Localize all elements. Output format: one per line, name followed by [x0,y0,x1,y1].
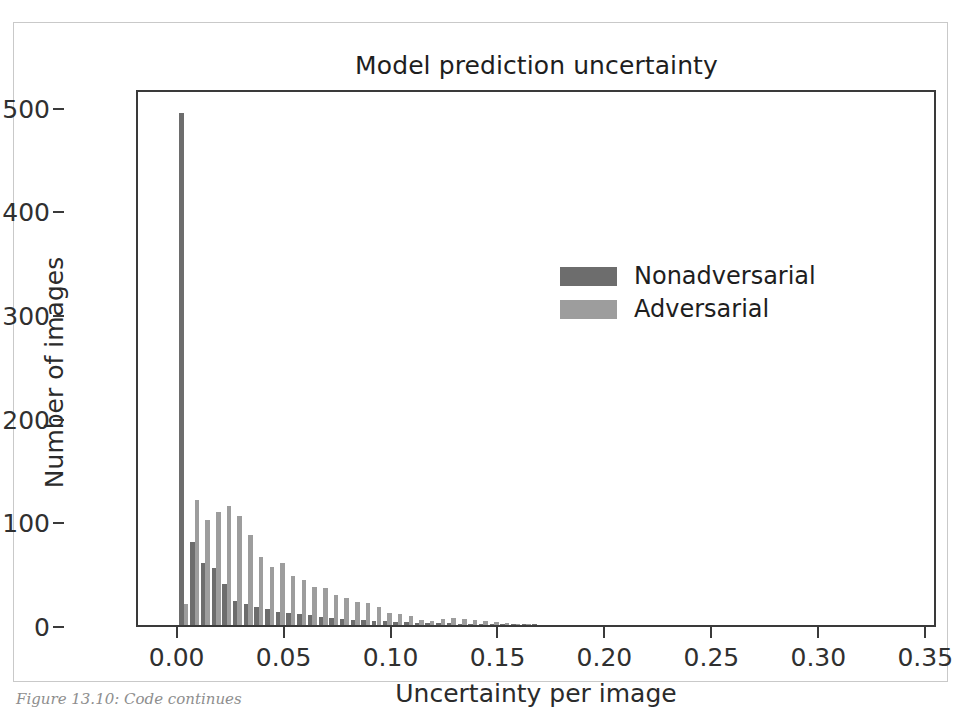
bar-adversarial-9 [280,563,284,625]
y-tick-label: 400 [2,198,50,227]
bar-adversarial-11 [302,580,306,625]
legend-label: Nonadversarial [634,264,816,288]
bar-adversarial-18 [377,607,381,625]
bar-adversarial-17 [366,603,370,625]
bar-adversarial-28 [483,621,487,625]
x-tick-mark [603,627,605,638]
x-tick-label: 0.15 [470,643,526,672]
x-tick-mark [817,627,819,638]
bar-adversarial-1 [195,500,199,625]
y-tick-label: 500 [2,94,50,123]
bar-adversarial-7 [259,557,263,625]
bar-adversarial-15 [344,598,348,625]
legend-swatch-icon [560,300,617,319]
bar-adversarial-22 [419,620,423,625]
x-tick-label: 0.10 [363,643,419,672]
chart-legend: NonadversarialAdversarial [548,255,830,330]
x-tick-label: 0.25 [684,643,740,672]
legend-item-adversarial: Adversarial [560,297,816,321]
bar-adversarial-23 [430,621,434,625]
bar-adversarial-12 [312,587,316,625]
y-tick-mark [53,211,64,213]
bar-adversarial-16 [355,602,359,625]
bar-adversarial-4 [227,506,231,625]
bar-adversarial-29 [494,622,498,625]
bar-adversarial-30 [505,623,509,625]
bar-adversarial-10 [291,576,295,625]
y-tick-mark [53,626,64,628]
y-tick-label: 300 [2,301,50,330]
bar-adversarial-20 [398,614,402,625]
bars-layer [138,92,934,625]
figure-caption: Figure 13.10: Code continues [16,690,242,708]
y-tick-mark [53,419,64,421]
bar-adversarial-13 [323,588,327,625]
figure-frame: Model prediction uncertainty Number of i… [13,22,948,682]
x-tick-label: 0.35 [897,643,953,672]
scanned-page: Model prediction uncertainty Number of i… [0,0,962,708]
bar-adversarial-27 [473,620,477,625]
bar-adversarial-5 [237,516,241,625]
legend-item-nonadversarial: Nonadversarial [560,264,816,288]
bar-nonadversarial-0 [179,113,183,625]
bar-adversarial-0 [184,604,188,625]
bar-adversarial-31 [516,624,520,625]
x-tick-mark [496,627,498,638]
bar-adversarial-32 [526,624,530,625]
y-tick-label: 0 [34,613,50,642]
x-tick-mark [390,627,392,638]
x-tick-label: 0.30 [791,643,847,672]
bar-adversarial-6 [248,535,252,625]
bar-adversarial-24 [441,619,445,625]
chart-title: Model prediction uncertainty [134,51,939,80]
bar-adversarial-2 [205,520,209,625]
bar-adversarial-25 [451,618,455,625]
x-tick-mark [924,627,926,638]
bar-adversarial-14 [334,595,338,625]
bar-adversarial-3 [216,512,220,625]
x-tick-mark [283,627,285,638]
x-axis-label: Uncertainty per image [136,679,936,708]
y-tick-mark [53,522,64,524]
bar-nonadversarial-33 [532,624,536,625]
x-axis: Uncertainty per image 0.000.050.100.150.… [136,627,936,708]
y-tick-label: 100 [2,509,50,538]
y-tick-mark [53,315,64,317]
legend-label: Adversarial [634,297,769,321]
x-tick-mark [710,627,712,638]
x-tick-label: 0.20 [577,643,633,672]
bar-adversarial-21 [409,616,413,625]
x-tick-mark [176,627,178,638]
y-tick-mark [53,108,64,110]
plot-area [136,90,936,627]
x-tick-label: 0.00 [149,643,205,672]
y-tick-label: 200 [2,405,50,434]
legend-swatch-icon [560,267,617,286]
y-axis: Number of images 0100200300400500 [14,23,136,635]
bar-adversarial-26 [462,619,466,625]
bar-adversarial-19 [387,613,391,625]
bar-adversarial-8 [270,567,274,625]
x-tick-label: 0.05 [256,643,312,672]
